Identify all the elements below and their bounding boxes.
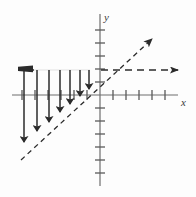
vertical-segments xyxy=(24,70,89,142)
graph-figure: y x xyxy=(0,0,196,197)
x-axis-label: x xyxy=(181,96,186,108)
y-axis xyxy=(95,14,105,186)
coordinate-plane-svg xyxy=(0,0,196,197)
top-left-arrow xyxy=(18,66,34,73)
y-axis-label: y xyxy=(104,11,109,23)
